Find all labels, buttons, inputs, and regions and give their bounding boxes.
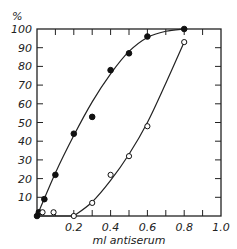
- x-tick-label: 0.6: [139, 221, 157, 234]
- y-tick-label: 80: [18, 60, 32, 73]
- y-axis-label: %: [12, 10, 22, 23]
- series-curves: [37, 29, 184, 216]
- y-tick-label: 70: [18, 79, 32, 92]
- filled-data-point: [42, 196, 48, 202]
- y-tick-label: 20: [18, 173, 32, 186]
- y-tick-label: 60: [18, 98, 32, 111]
- x-tick-label: 0.8: [175, 221, 193, 234]
- axis-ticks: [37, 29, 221, 216]
- open-data-point: [51, 210, 56, 215]
- open-data-point: [126, 154, 131, 159]
- open-data-point: [71, 213, 76, 218]
- filled-data-point: [71, 131, 77, 137]
- x-tick-labels: 0.20.40.60.81.0: [65, 221, 230, 234]
- filled-data-point: [145, 34, 151, 40]
- chart: 102030405060708090100 0.20.40.60.81.0 % …: [0, 0, 237, 249]
- open-data-point: [90, 200, 95, 205]
- x-tick-label: 0.4: [102, 221, 120, 234]
- y-tick-label: 100: [11, 23, 32, 36]
- plot-frame: [37, 29, 221, 216]
- filled-data-point: [108, 67, 114, 73]
- y-tick-label: 10: [18, 191, 32, 204]
- filled-data-point: [181, 26, 187, 32]
- y-tick-label: 90: [18, 42, 32, 55]
- filled-series-line: [37, 29, 184, 216]
- open-data-point: [108, 172, 113, 177]
- y-tick-label: 30: [18, 154, 32, 167]
- y-tick-label: 50: [18, 117, 32, 130]
- plot-border: [37, 29, 221, 216]
- open-data-point: [145, 124, 150, 129]
- filled-data-point: [126, 51, 132, 57]
- open-data-point: [182, 39, 187, 44]
- x-axis-label: ml antiserum: [92, 234, 165, 247]
- open-data-point: [40, 210, 45, 215]
- filled-data-point: [89, 114, 95, 120]
- y-tick-label: 40: [18, 135, 32, 148]
- x-tick-label: 0.2: [65, 221, 83, 234]
- open-series-line: [74, 42, 184, 216]
- filled-data-point: [53, 172, 59, 178]
- series-markers: [34, 26, 187, 219]
- y-tick-labels: 102030405060708090100: [11, 23, 32, 204]
- x-tick-label: 1.0: [212, 221, 230, 234]
